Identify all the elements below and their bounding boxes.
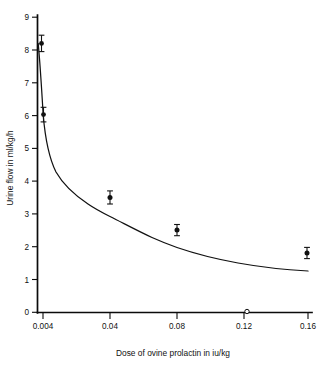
marker-016 [305, 251, 310, 256]
y-tick-label-3: 3 [24, 210, 29, 219]
y-tick-label-1: 1 [24, 276, 29, 285]
x-tick-label-012: 0.12 [236, 322, 252, 331]
x-tick-label-008: 0.08 [169, 322, 185, 331]
data-point-008 [174, 225, 180, 236]
y-tick-label-8: 8 [24, 46, 29, 55]
data-point-control [39, 35, 45, 51]
data-point-016 [304, 247, 310, 258]
marker-008 [175, 228, 180, 233]
x-tick-label-004: 0.04 [102, 322, 118, 331]
x-tick-label-0004: 0.004 [33, 322, 54, 331]
open-circle-marker-on-x-axis [245, 309, 249, 313]
y-tick-label-5: 5 [24, 144, 29, 153]
y-tick-label-9: 9 [24, 13, 29, 22]
marker-004 [108, 195, 113, 200]
x-axis-title: Dose of ovine prolactin in iu/kg [116, 348, 230, 358]
figure-panel: 9 8 7 6 5 4 3 2 1 0 0.004 0.04 0.08 0.12… [0, 0, 325, 375]
x-tick-label-016: 0.16 [300, 322, 316, 331]
y-tick-label-6: 6 [24, 112, 29, 121]
y-tick-labels: 9 8 7 6 5 4 3 2 1 0 [24, 13, 29, 317]
y-tick-label-7: 7 [24, 79, 29, 88]
y-tick-label-4: 4 [24, 177, 29, 186]
y-axis-title: Urine flow in ml/kg/h [5, 130, 15, 206]
marker-control [39, 41, 44, 46]
data-points-group [39, 35, 310, 313]
data-point-004 [107, 191, 113, 204]
marker-0004 [41, 112, 46, 117]
x-tick-marks [43, 313, 308, 320]
x-tick-labels: 0.004 0.04 0.08 0.12 0.16 [33, 322, 317, 331]
y-tick-label-0: 0 [24, 308, 29, 317]
chart-canvas: 9 8 7 6 5 4 3 2 1 0 0.004 0.04 0.08 0.12… [0, 0, 325, 375]
fitted-curve [38, 44, 308, 272]
y-tick-label-2: 2 [24, 243, 29, 252]
data-point-0004 [41, 107, 47, 122]
